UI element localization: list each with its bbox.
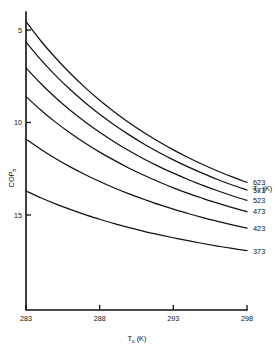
y-tick-label-15: 5 (18, 26, 22, 35)
chart-background (0, 0, 275, 353)
chart-figure: 15105 283288293298 Th (K)623573523473423… (0, 0, 275, 353)
x-axis-title: Tc (K) (127, 334, 146, 344)
x-tick-label-293: 293 (167, 314, 179, 323)
x-tick-label-288: 288 (94, 314, 106, 323)
x-tick-label-298: 298 (241, 314, 253, 323)
cop-vs-temperature-chart: 15105 283288293298 Th (K)623573523473423… (0, 0, 275, 353)
y-tick-label-5: 15 (14, 211, 22, 220)
legend-entry-423: 423 (253, 224, 265, 233)
legend-entry-373: 373 (253, 247, 265, 256)
y-tick-label-10: 10 (14, 118, 22, 127)
legend-entry-573: 573 (253, 186, 265, 195)
x-tick-label-283: 283 (20, 314, 32, 323)
legend-entry-523: 523 (253, 196, 265, 205)
legend-entry-473: 473 (253, 207, 265, 216)
